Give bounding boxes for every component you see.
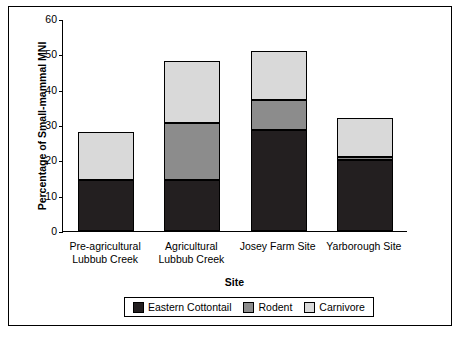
bar-segment bbox=[251, 130, 307, 231]
bar-group bbox=[251, 19, 307, 231]
bar-segment bbox=[251, 100, 307, 130]
x-axis-title: Site bbox=[62, 276, 407, 288]
x-axis-labels: Pre-agriculturalLubbub CreekAgricultural… bbox=[62, 236, 407, 276]
bar-group bbox=[78, 19, 134, 231]
plot-area: 0102030405060 bbox=[62, 20, 407, 232]
chart-legend: Eastern CottontailRodentCarnivore bbox=[124, 297, 374, 317]
legend-label: Carnivore bbox=[319, 301, 365, 313]
y-tick-label: 0 bbox=[23, 226, 57, 237]
y-tick-mark bbox=[59, 232, 63, 233]
legend-item: Rodent bbox=[243, 301, 292, 313]
bar-group bbox=[164, 19, 220, 231]
y-tick-label: 50 bbox=[23, 49, 57, 60]
y-tick-label: 40 bbox=[23, 85, 57, 96]
y-tick-label: 20 bbox=[23, 155, 57, 166]
bar-group bbox=[337, 19, 393, 231]
legend-swatch bbox=[243, 302, 254, 313]
bar-segment bbox=[78, 180, 134, 231]
legend-label: Eastern Cottontail bbox=[148, 301, 231, 313]
x-tick-label: Yarborough Site bbox=[311, 240, 417, 253]
legend-item: Eastern Cottontail bbox=[133, 301, 231, 313]
y-tick-label: 10 bbox=[23, 191, 57, 202]
bar-segment bbox=[164, 61, 220, 123]
bar-segment bbox=[164, 180, 220, 231]
bar-segment bbox=[337, 118, 393, 157]
bar-segment bbox=[251, 51, 307, 100]
bars-layer bbox=[63, 20, 407, 231]
legend-swatch bbox=[133, 302, 144, 313]
legend-item: Carnivore bbox=[304, 301, 365, 313]
y-tick-label: 60 bbox=[23, 14, 57, 25]
legend-swatch bbox=[304, 302, 315, 313]
bar-segment bbox=[78, 132, 134, 180]
bar-segment bbox=[337, 157, 393, 161]
chart-figure: Percentage of Small-mammal MNI 010203040… bbox=[0, 0, 463, 338]
legend-label: Rodent bbox=[258, 301, 292, 313]
bar-segment bbox=[337, 160, 393, 231]
bar-segment bbox=[164, 123, 220, 180]
y-tick-label: 30 bbox=[23, 120, 57, 131]
